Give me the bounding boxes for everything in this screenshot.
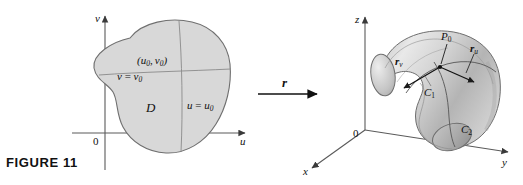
tangent-vector-rv-label: rv	[395, 56, 403, 69]
C1-subscript: 1	[431, 91, 435, 100]
xyz-origin-label: 0	[353, 128, 359, 139]
map-arrow-label: r	[282, 76, 287, 89]
gridline-v-rhs-subscript: 0	[139, 75, 143, 84]
curve-C1-label: C1	[424, 87, 435, 100]
gridline-v-equals: =	[122, 70, 134, 82]
point-u0-v0-label: (u0, v0)	[137, 55, 167, 68]
x-axis-label: x	[303, 166, 308, 177]
figure-container: FIGURE 11 v u 0 (u0, v0) v = v0 D u = u0…	[0, 0, 523, 185]
gridline-u-rhs-subscript: 0	[210, 104, 214, 113]
region-D-label: D	[146, 101, 155, 114]
C2-subscript: 2	[468, 128, 472, 137]
y-axis-label: y	[502, 157, 507, 168]
point-close-paren: )	[163, 54, 167, 66]
gridline-v-label: v = v0	[117, 71, 142, 84]
rv-subscript: v	[399, 60, 402, 69]
gridline-u-equals: =	[193, 99, 205, 111]
figure-vector-graphics	[0, 0, 523, 185]
figure-caption: FIGURE 11	[6, 155, 78, 170]
ru-subscript: u	[474, 47, 478, 56]
gridline-u-label: u = u0	[187, 100, 213, 113]
uv-origin-label: 0	[93, 136, 99, 147]
P0-letter: P	[441, 30, 448, 42]
v-axis-label: v	[95, 13, 100, 24]
tangent-vector-ru-label: ru	[470, 43, 478, 56]
u-axis-label: u	[240, 136, 246, 147]
P0-subscript: 0	[448, 35, 452, 44]
curve-C2-label: C2	[461, 124, 472, 137]
z-axis-label: z	[355, 14, 359, 25]
point-P0-label: P0	[441, 31, 451, 44]
